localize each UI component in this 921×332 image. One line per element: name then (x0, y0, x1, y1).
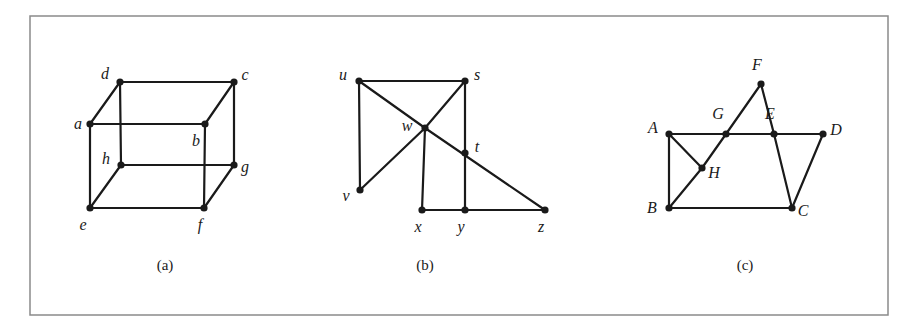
graph-vertex-y (461, 206, 468, 213)
vertex-label-G: G (712, 105, 724, 122)
panel-caption-a: (a) (157, 257, 174, 274)
vertex-label-v: v (342, 187, 350, 204)
vertex-label-s: s (474, 66, 480, 83)
graph-vertex-z (541, 206, 548, 213)
graph-panel-a: abcdefgh(a) (74, 65, 249, 274)
edges-group (90, 82, 234, 208)
vertex-label-F: F (751, 56, 762, 73)
vertex-label-b: b (192, 132, 200, 149)
vertex-label-d: d (101, 65, 110, 82)
graph-edge-a-d (90, 82, 120, 124)
graph-edge-B-H (669, 168, 702, 208)
graph-vertex-G (722, 130, 729, 137)
vertex-label-h: h (102, 150, 110, 167)
vertex-label-A: A (647, 119, 658, 136)
vertices-group: ABCDEFGH (647, 56, 842, 219)
panels-layer: abcdefgh(a)uswvtxyz(b)ABCDEFGH(c) (74, 56, 842, 274)
graph-edge-C-D (792, 134, 823, 208)
vertex-label-f: f (198, 216, 205, 234)
panel-caption-c: (c) (737, 257, 754, 274)
vertex-label-z: z (537, 218, 545, 235)
graph-vertex-g (230, 161, 237, 168)
graph-vertex-s (461, 77, 468, 84)
vertex-label-a: a (74, 115, 82, 132)
graph-figure-svg: abcdefgh(a)uswvtxyz(b)ABCDEFGH(c) (0, 0, 921, 332)
graph-edge-e-h (90, 165, 121, 208)
graph-edge-w-v (360, 128, 425, 190)
graph-edge-b-c (205, 82, 234, 124)
graph-vertex-w (421, 124, 428, 131)
graph-edge-u-v (359, 81, 360, 190)
graph-edge-s-w (425, 81, 465, 128)
graph-edge-d-h (120, 82, 121, 165)
edges-group (359, 81, 545, 210)
edges-group (669, 84, 823, 208)
vertex-label-x: x (413, 218, 421, 235)
graph-vertex-x (418, 206, 425, 213)
graph-edge-E-C (774, 134, 792, 208)
figure-container: abcdefgh(a)uswvtxyz(b)ABCDEFGH(c) (0, 0, 921, 332)
panel-caption-b: (b) (416, 257, 434, 274)
vertex-label-E: E (764, 105, 775, 122)
graph-vertex-v (356, 186, 363, 193)
graph-vertex-t (461, 149, 468, 156)
graph-vertex-u (355, 77, 362, 84)
graph-vertex-d (116, 78, 123, 85)
graph-vertex-A (665, 130, 672, 137)
graph-vertex-b (201, 120, 208, 127)
graph-edge-b-f (204, 124, 205, 208)
graph-vertex-D (819, 130, 826, 137)
graph-edge-u-w (359, 81, 425, 128)
vertex-label-H: H (707, 164, 721, 181)
vertex-label-B: B (647, 199, 657, 216)
graph-vertex-c (230, 78, 237, 85)
graph-vertex-h (117, 161, 124, 168)
graph-vertex-f (200, 204, 207, 211)
graph-panel-c: ABCDEFGH(c) (647, 56, 842, 274)
graph-edge-w-x (422, 128, 425, 210)
vertex-label-w: w (402, 117, 413, 134)
vertex-label-C: C (798, 202, 809, 219)
vertex-label-c: c (241, 66, 248, 83)
graph-vertex-a (86, 120, 93, 127)
graph-edge-w-z (425, 128, 545, 210)
graph-vertex-e (86, 204, 93, 211)
vertex-label-D: D (829, 121, 842, 138)
vertex-label-g: g (241, 158, 249, 176)
vertex-label-t: t (475, 138, 480, 155)
graph-vertex-B (665, 204, 672, 211)
graph-edge-A-H (669, 134, 702, 168)
graph-edge-G-F (726, 84, 761, 134)
graph-vertex-E (770, 130, 777, 137)
graph-vertex-H (698, 164, 705, 171)
graph-panel-b: uswvtxyz(b) (339, 66, 549, 274)
vertex-label-e: e (79, 216, 86, 233)
vertex-label-y: y (455, 218, 465, 236)
graph-vertex-F (757, 80, 764, 87)
vertex-label-u: u (339, 66, 347, 83)
graph-vertex-C (788, 204, 795, 211)
graph-edge-H-G (702, 134, 726, 168)
graph-edge-f-g (204, 165, 234, 208)
